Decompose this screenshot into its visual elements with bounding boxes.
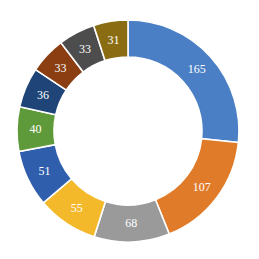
slice-value-label: 33 [55,61,67,75]
slice-value-label: 36 [37,88,49,102]
slice-value-label: 165 [188,62,206,76]
slice-value-label: 68 [125,216,137,230]
slice-value-label: 107 [193,180,211,194]
donut-slices [17,20,239,242]
slice-value-label: 33 [79,42,91,56]
slice-value-label: 40 [30,122,42,136]
slice-value-label: 55 [71,201,83,215]
slice-value-label: 31 [108,33,120,47]
donut-slice [128,20,239,143]
donut-chart: 1651076855514036333331 [0,0,259,259]
slice-value-label: 51 [38,164,50,178]
